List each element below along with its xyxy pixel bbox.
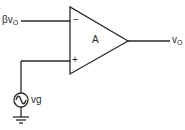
feedback-label-sub: O bbox=[13, 19, 18, 26]
gain-label: A bbox=[92, 35, 99, 45]
noninverting-input-symbol: + bbox=[72, 55, 78, 65]
output-label-sub: O bbox=[177, 39, 182, 46]
output-label: vO bbox=[172, 35, 182, 46]
ground-icon bbox=[13, 117, 29, 123]
sine-wave-icon bbox=[16, 96, 26, 104]
source-label: vg bbox=[31, 95, 42, 105]
feedback-label-main: βv bbox=[2, 14, 13, 25]
feedback-input-label: βvO bbox=[2, 15, 18, 26]
inverting-input-symbol: − bbox=[73, 15, 79, 25]
opamp-circuit-diagram bbox=[0, 0, 185, 130]
